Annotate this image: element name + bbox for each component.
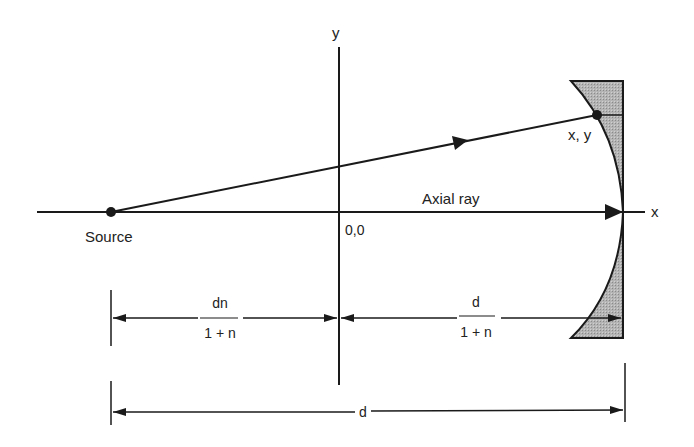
dimension-total: d xyxy=(111,363,625,425)
point-label: x, y xyxy=(568,126,592,143)
dim-right-numerator: d xyxy=(472,294,480,310)
axial-ray-arrowhead xyxy=(605,204,623,220)
dim-total-label: d xyxy=(359,404,367,420)
x-axis-label: x xyxy=(651,203,659,220)
dim-left-numerator: dn xyxy=(212,295,228,311)
y-axis-label: y xyxy=(332,24,340,41)
axial-ray-label: Axial ray xyxy=(422,190,480,207)
dim-right-denominator: 1 + n xyxy=(460,324,492,340)
oblique-ray-arrowhead xyxy=(452,136,468,150)
oblique-ray xyxy=(111,115,597,212)
source-label: Source xyxy=(85,228,133,245)
origin-label: 0,0 xyxy=(345,222,365,238)
optics-diagram: y x Axial ray 0,0 Source x, y dn 1 + n d… xyxy=(0,0,694,447)
dimension-left: dn 1 + n xyxy=(111,290,337,346)
dim-left-denominator: 1 + n xyxy=(204,325,236,341)
